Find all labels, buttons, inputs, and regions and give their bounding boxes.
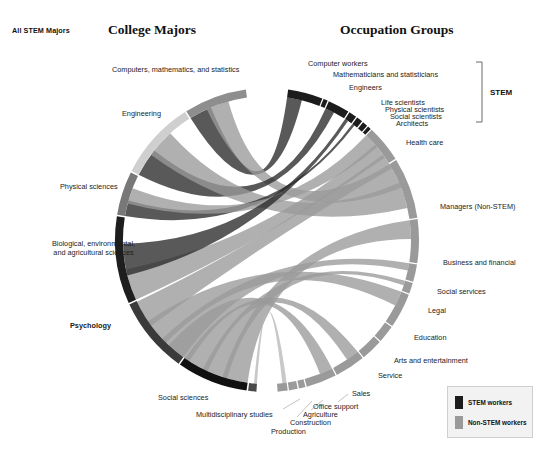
ribbon-layer — [123, 97, 411, 383]
occupation-label: Production — [271, 428, 306, 436]
legend-label-stem: STEM workers — [468, 399, 512, 406]
occupation-label: Arts and entertainment — [394, 357, 468, 365]
occupation-arc-segment[interactable] — [277, 383, 288, 392]
occupation-label: Mathematicians and statisticians — [333, 71, 438, 79]
major-label: Computers, mathematics, and statistics — [112, 66, 239, 74]
chord-diagram-canvas: All STEM Majors College Majors Occupatio… — [0, 0, 539, 463]
occupation-label: Managers (Non-STEM) — [440, 203, 515, 211]
legend-label-non-stem: Non-STEM workers — [468, 419, 527, 426]
occupation-arc-segment[interactable] — [359, 337, 380, 358]
occupation-arc-segment[interactable] — [375, 322, 392, 340]
occupation-label: Architects — [396, 120, 428, 128]
corner-tag: All STEM Majors — [12, 26, 70, 35]
occupation-label: Social services — [437, 288, 486, 296]
major-label: Social sciences — [158, 394, 208, 402]
legend-swatch-stem — [455, 396, 463, 409]
major-label: Psychology — [70, 322, 111, 330]
occupation-arc-segment[interactable] — [297, 379, 305, 388]
occupation-arc-segment[interactable] — [288, 381, 298, 390]
occupation-label: Legal — [428, 307, 446, 315]
occupation-label: Health care — [406, 139, 443, 147]
right-panel-title: Occupation Groups — [340, 22, 453, 38]
occupation-label: Engineers — [349, 84, 382, 92]
occupation-label: Service — [378, 372, 402, 380]
legend: STEM workers Non-STEM workers — [447, 386, 533, 438]
occupation-label: Computer workers — [308, 60, 368, 68]
major-label: Engineering — [122, 110, 161, 118]
major-arc-segment[interactable] — [248, 383, 257, 392]
label-leader-line — [283, 399, 300, 409]
occupation-label: Sales — [352, 390, 370, 398]
left-panel-title: College Majors — [108, 22, 196, 38]
legend-item-stem: STEM workers — [455, 396, 512, 409]
major-label: Multidisciplinary studies — [196, 411, 273, 419]
occupation-label: Education — [414, 334, 446, 342]
stem-bracket-icon — [476, 62, 482, 122]
legend-swatch-non-stem — [455, 416, 463, 429]
occupation-arc-segment[interactable] — [409, 219, 419, 263]
major-label: Biological, environmental, and agricultu… — [46, 240, 141, 257]
major-label: Physical sciences — [60, 183, 118, 191]
legend-item-non-stem: Non-STEM workers — [455, 416, 527, 429]
stem-bracket-label: STEM — [490, 88, 512, 97]
label-leader-line — [338, 394, 348, 402]
occupation-label: Business and financial — [443, 259, 516, 267]
